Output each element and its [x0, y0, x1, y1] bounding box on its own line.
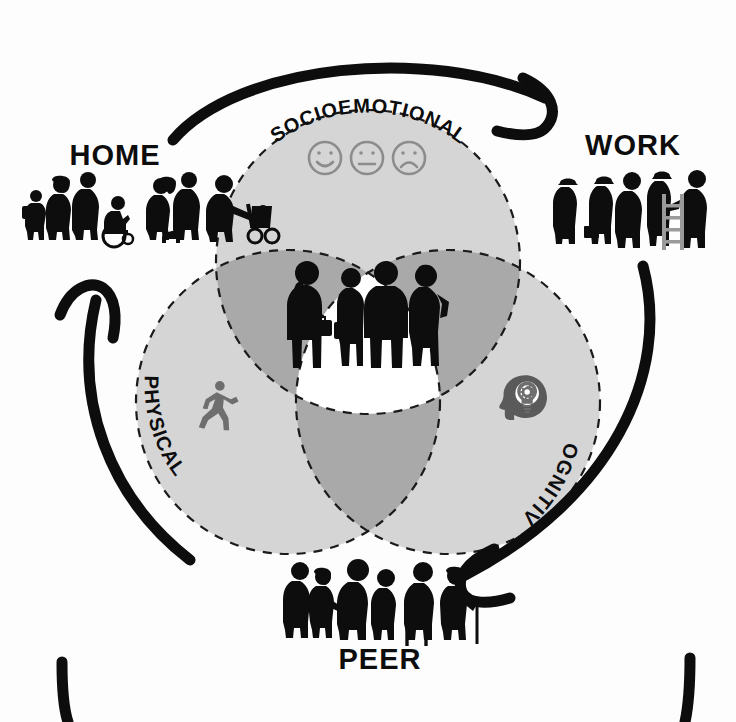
venn-diagram-svg: Physical Developm Activ — [0, 0, 736, 722]
figure-canvas: Physical Developm Activ — [0, 0, 736, 722]
outer-stem-right — [685, 658, 690, 722]
outer-stem-left — [62, 662, 68, 722]
label-home: HOME — [70, 139, 161, 171]
label-peer: PEER — [339, 643, 422, 675]
label-work: WORK — [585, 129, 681, 161]
